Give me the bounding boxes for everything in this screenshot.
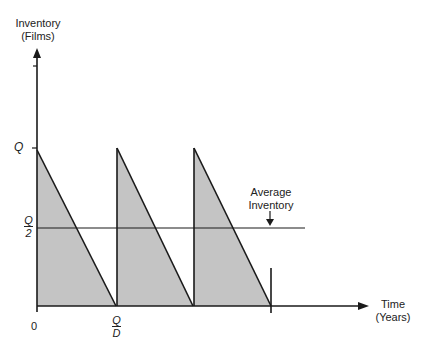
q-half-numerator: Q xyxy=(24,215,33,225)
x-axis-label-line2: (Years) xyxy=(368,311,418,324)
y-axis-arrow xyxy=(33,48,41,58)
y-tick-label-q: Q xyxy=(14,141,23,154)
x-tick-label-q-over-d: Q D xyxy=(112,315,121,338)
average-label-line1: Average xyxy=(240,186,302,199)
average-arrow-head xyxy=(266,219,274,226)
average-inventory-label: Average Inventory xyxy=(240,186,302,212)
inventory-diagram xyxy=(0,0,422,347)
q-half-denominator: 2 xyxy=(25,228,31,238)
y-axis-label-line1: Inventory xyxy=(8,17,68,30)
q-over-d-numerator: Q xyxy=(112,315,121,325)
x-axis-label: Time (Years) xyxy=(368,298,418,324)
y-tick-label-q-half: Q 2 xyxy=(24,215,33,238)
q-over-d-denominator: D xyxy=(113,328,121,338)
x-axis-label-line1: Time xyxy=(368,298,418,311)
y-axis-label: Inventory (Films) xyxy=(8,17,68,43)
average-label-line2: Inventory xyxy=(240,199,302,212)
y-axis-label-line2: (Films) xyxy=(8,30,68,43)
x-tick-label-zero: 0 xyxy=(31,320,37,333)
